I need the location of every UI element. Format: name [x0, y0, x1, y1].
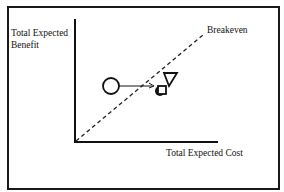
y-axis-label-line2: Benefit — [11, 39, 68, 51]
circle-marker — [103, 78, 119, 94]
breakeven-label: Breakeven — [207, 24, 248, 36]
triangle-marker — [164, 73, 177, 86]
square-marker — [158, 86, 166, 94]
y-axis-label-line1: Total Expected — [11, 27, 68, 39]
x-axis-label: Total Expected Cost — [166, 147, 243, 159]
breakeven-line — [76, 35, 203, 141]
y-axis-label: Total Expected Benefit — [11, 27, 68, 51]
